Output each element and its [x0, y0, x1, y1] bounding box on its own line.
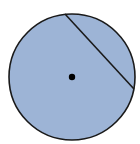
circle-diagram	[0, 0, 140, 144]
center-point	[69, 74, 75, 80]
